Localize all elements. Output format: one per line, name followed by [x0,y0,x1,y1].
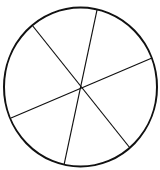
divided-circle-diagram [0,0,160,170]
dividing-lines [11,10,152,165]
dividing-line-3 [11,58,152,118]
dividing-line-2 [64,10,97,165]
